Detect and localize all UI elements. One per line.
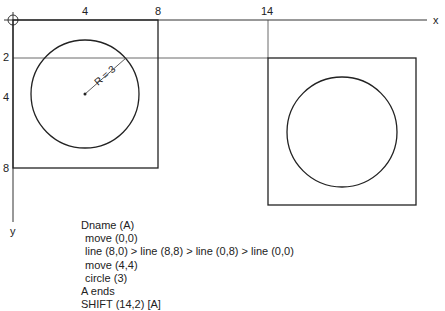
program-line: circle (3): [81, 272, 294, 285]
program-line: move (4,4): [81, 259, 294, 272]
x-tick-14: 14: [261, 5, 273, 17]
program-listing: Dname (A) move (0,0) line (8,0) > line (…: [81, 219, 294, 311]
center-point: [84, 93, 87, 96]
y-tick-4: 4: [3, 91, 9, 103]
program-line: move (0,0): [81, 232, 294, 245]
program-line: line (8,0) > line (8,8) > line (0,8) > l…: [81, 245, 294, 258]
y-tick-2: 2: [3, 51, 9, 63]
y-tick-8: 8: [3, 162, 9, 174]
program-line: A ends: [81, 285, 294, 298]
program-line: Dname (A): [81, 219, 294, 232]
radius-label: R = 3: [92, 63, 118, 87]
x-tick-8: 8: [155, 5, 161, 17]
shifted-shape-circle: [287, 77, 397, 187]
shifted-shape-square: [268, 58, 416, 205]
x-axis-label: x: [433, 14, 439, 26]
y-axis-label: y: [10, 225, 16, 237]
program-line: SHIFT (14,2) [A]: [81, 298, 294, 311]
x-tick-4: 4: [82, 5, 88, 17]
